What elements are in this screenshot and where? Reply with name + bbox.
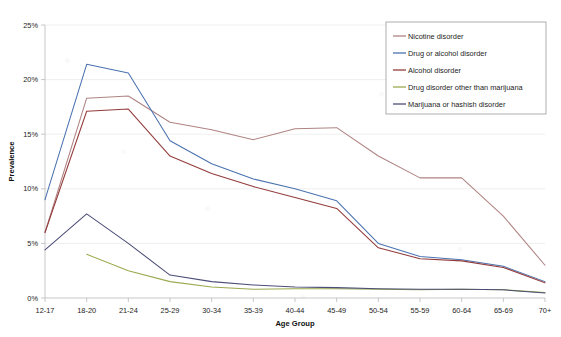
y-axis-title: Prevalence: [7, 141, 16, 181]
chart-canvas: 0%5%10%15%20%25%12-1718-2021-2425-2930-3…: [0, 0, 561, 337]
series-line-3: [87, 254, 545, 292]
legend-label-0: Nicotine disorder: [408, 32, 464, 41]
legend-label-1: Drug or alcohol disorder: [408, 49, 487, 58]
prevalence-by-age-line-chart: 0%5%10%15%20%25%12-1718-2021-2425-2930-3…: [0, 0, 561, 337]
x-tick-label: 25-29: [161, 306, 180, 315]
x-tick-label: 50-54: [369, 306, 388, 315]
series-line-0: [45, 96, 545, 265]
x-tick-label: 65-69: [494, 306, 513, 315]
y-tick-label: 25%: [23, 21, 38, 30]
x-tick-label: 55-59: [411, 306, 430, 315]
x-tick-label: 18-20: [77, 306, 96, 315]
y-tick-label: 0%: [27, 294, 38, 303]
x-tick-label: 60-64: [452, 306, 471, 315]
y-tick-label: 10%: [23, 184, 38, 193]
x-tick-label: 30-34: [202, 306, 221, 315]
y-tick-label: 15%: [23, 130, 38, 139]
series-line-4: [45, 214, 545, 293]
y-tick-label: 20%: [23, 75, 38, 84]
x-tick-label: 45-49: [327, 306, 346, 315]
legend-label-4: Marijuana or hashish disorder: [408, 100, 506, 109]
x-tick-label: 12-17: [36, 306, 55, 315]
x-tick-label: 40-44: [286, 306, 305, 315]
x-tick-label: 35-39: [244, 306, 263, 315]
y-tick-label: 5%: [27, 239, 38, 248]
series-line-2: [45, 109, 545, 283]
legend-label-2: Alcohol disorder: [408, 66, 462, 75]
x-axis-title: Age Group: [275, 319, 315, 328]
legend-label-3: Drug disorder other than marijuana: [408, 83, 524, 92]
x-tick-label: 70+: [539, 306, 552, 315]
x-tick-label: 21-24: [119, 306, 138, 315]
